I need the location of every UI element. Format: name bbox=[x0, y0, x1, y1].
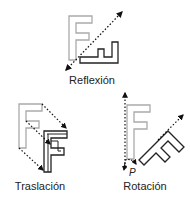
reflection-panel bbox=[66, 12, 122, 70]
pivot-label: P bbox=[129, 168, 136, 178]
rotation-panel bbox=[123, 93, 184, 170]
rotation-label: Rotación bbox=[123, 181, 166, 192]
transformations-diagram bbox=[0, 0, 190, 198]
translation-label: Traslación bbox=[15, 181, 65, 192]
rotation-direction-arrow bbox=[158, 115, 183, 140]
rotated-f-shape bbox=[139, 131, 184, 165]
translation-arrow bbox=[42, 104, 66, 128]
translated-f-back bbox=[44, 131, 67, 172]
reflected-f-shape bbox=[80, 42, 118, 63]
original-f-shape bbox=[127, 105, 150, 159]
translation-arrow bbox=[26, 121, 50, 144]
reflection-axis-line bbox=[66, 12, 122, 70]
translation-panel bbox=[19, 104, 67, 172]
reflection-label: Reflexión bbox=[69, 75, 115, 86]
pivot-arrow bbox=[124, 162, 125, 170]
original-f-shape bbox=[69, 16, 92, 60]
rotation-arc bbox=[125, 160, 136, 165]
original-f-shape bbox=[19, 104, 42, 148]
translation-arrow bbox=[19, 148, 43, 170]
